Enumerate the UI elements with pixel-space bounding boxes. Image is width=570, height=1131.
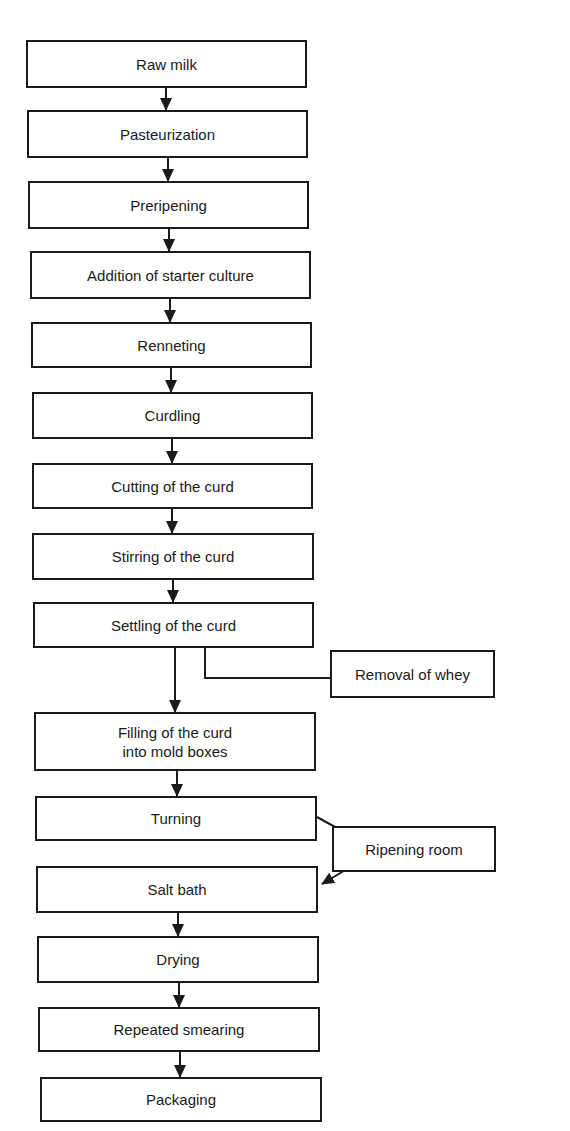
step-label: Stirring of the curd <box>112 547 235 566</box>
step-label: Turning <box>151 809 201 828</box>
step-addition-of-starter-culture: Addition of starter culture <box>30 251 311 299</box>
step-repeated-smearing: Repeated smearing <box>38 1007 320 1052</box>
step-curdling: Curdling <box>32 392 313 439</box>
step-label: Preripening <box>130 196 207 215</box>
step-renneting: Renneting <box>31 322 312 368</box>
step-label: Addition of starter culture <box>87 266 254 285</box>
step-label: Packaging <box>146 1090 216 1109</box>
step-label: Salt bath <box>147 880 206 899</box>
step-label: Cutting of the curd <box>111 477 234 496</box>
step-label: Renneting <box>137 336 205 355</box>
node-label: Ripening room <box>365 840 463 859</box>
step-label: Filling of the curd into mold boxes <box>118 723 232 761</box>
step-filling-of-the-curd: Filling of the curd into mold boxes <box>34 712 316 771</box>
step-packaging: Packaging <box>40 1077 322 1122</box>
node-removal-of-whey: Removal of whey <box>330 650 495 698</box>
step-turning: Turning <box>35 796 317 841</box>
step-label: Repeated smearing <box>114 1020 245 1039</box>
node-label: Removal of whey <box>355 665 470 684</box>
step-settling-of-the-curd: Settling of the curd <box>33 602 314 648</box>
step-label: Drying <box>156 950 199 969</box>
step-pasteurization: Pasteurization <box>27 110 308 158</box>
step-label: Curdling <box>145 406 201 425</box>
node-ripening-room: Ripening room <box>332 826 496 872</box>
step-label: Raw milk <box>136 55 197 74</box>
step-preripening: Preripening <box>28 181 309 229</box>
step-stirring-of-the-curd: Stirring of the curd <box>32 533 314 580</box>
step-salt-bath: Salt bath <box>36 866 318 913</box>
step-drying: Drying <box>37 936 319 983</box>
step-label: Pasteurization <box>120 125 215 144</box>
step-raw-milk: Raw milk <box>26 40 307 88</box>
step-cutting-of-the-curd: Cutting of the curd <box>32 463 313 509</box>
step-label: Settling of the curd <box>111 616 236 635</box>
